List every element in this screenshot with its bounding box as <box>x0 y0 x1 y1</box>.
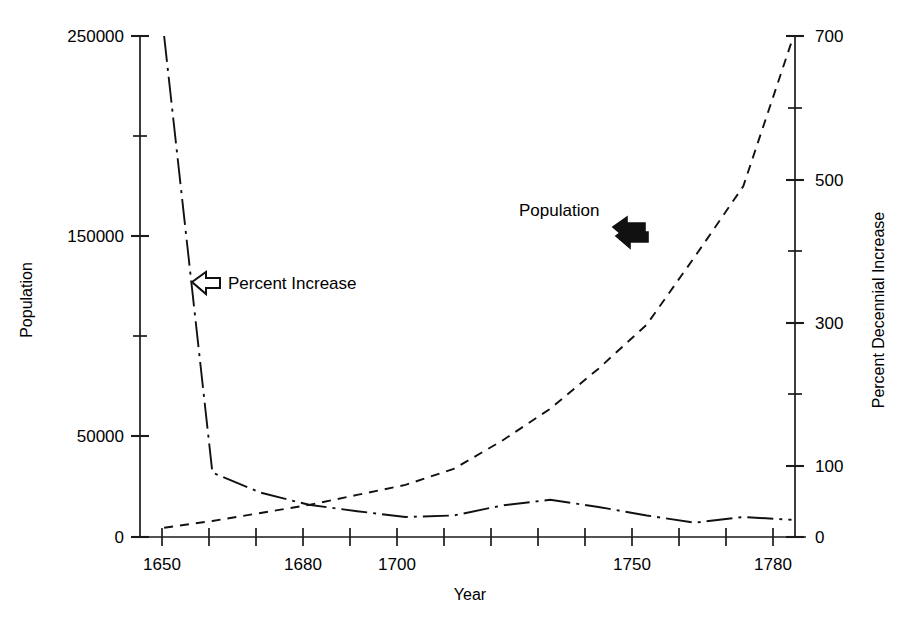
right-y-axis: 700 500 300 100 0 Percent Decennial Incr… <box>786 27 887 547</box>
x-tick-label-1680: 1680 <box>284 555 322 574</box>
annotation-label-percent-increase: Percent Increase <box>228 274 357 293</box>
chart-container: 250000 150000 50000 0 Population 700 500… <box>0 0 913 627</box>
x-tick-label-1650: 1650 <box>143 555 181 574</box>
y2-axis-title: Percent Decennial Increase <box>870 212 887 409</box>
y-axis-title: Population <box>18 262 35 338</box>
x-tick-label-1750: 1750 <box>613 555 651 574</box>
x-tick-label-1780: 1780 <box>754 555 792 574</box>
right-tick-label-700: 700 <box>815 27 843 46</box>
x-axis: 1650 1680 1700 1750 1780 Year <box>140 528 806 603</box>
annotation-percent-increase: Percent Increase <box>192 272 357 294</box>
right-tick-label-300: 300 <box>815 314 843 333</box>
annotation-label-population: Population <box>519 201 599 220</box>
left-hollow-arrow-icon <box>192 272 220 294</box>
chart-svg: 250000 150000 50000 0 Population 700 500… <box>0 0 913 627</box>
left-tick-label-50000: 50000 <box>77 427 124 446</box>
left-tick-label-250000: 250000 <box>67 27 124 46</box>
annotation-population: Population <box>519 201 648 248</box>
left-y-axis: 250000 150000 50000 0 Population <box>18 27 149 547</box>
right-tick-label-0: 0 <box>815 528 824 547</box>
left-tick-label-0: 0 <box>115 528 124 547</box>
right-tick-label-100: 100 <box>815 457 843 476</box>
x-axis-title: Year <box>454 586 487 603</box>
x-tick-label-1700: 1700 <box>378 555 416 574</box>
right-tick-label-500: 500 <box>815 171 843 190</box>
left-tick-label-150000: 150000 <box>67 227 124 246</box>
